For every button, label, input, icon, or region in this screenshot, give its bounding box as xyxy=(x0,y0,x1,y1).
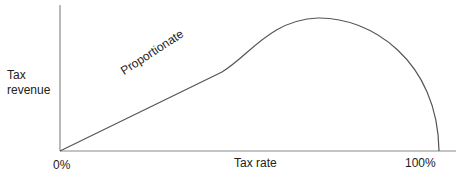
x-axis-label: Tax rate xyxy=(234,156,277,170)
x-tick-100-percent: 100% xyxy=(405,156,436,170)
x-tick-0-percent: 0% xyxy=(53,158,70,172)
y-axis-label: Tax revenue xyxy=(7,68,50,98)
y-axis-label-line2: revenue xyxy=(7,83,50,98)
diagram-canvas xyxy=(0,0,461,174)
laffer-curve-diagram: Tax revenue Proportionate 0% Tax rate 10… xyxy=(0,0,461,174)
y-axis-label-line1: Tax xyxy=(7,68,50,83)
revenue-curve xyxy=(60,18,439,151)
